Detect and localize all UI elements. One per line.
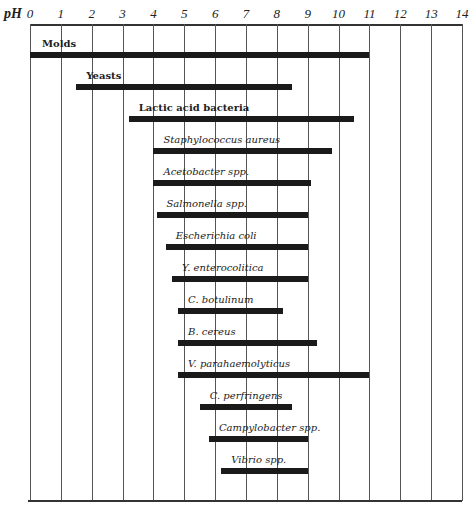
bar-label: Vibrio spp. (231, 454, 286, 465)
gridline (400, 24, 401, 501)
gridline (123, 24, 124, 501)
range-bar (153, 180, 310, 186)
x-tick-label: 2 (88, 6, 95, 22)
range-bar (178, 308, 283, 314)
range-bar (157, 212, 308, 218)
range-bar (209, 436, 308, 442)
bar-label: Yeasts (86, 70, 121, 81)
gridline (61, 24, 62, 501)
x-tick-label: 8 (274, 6, 281, 22)
range-bar (178, 372, 369, 378)
ph-range-chart: pH 01234567891011121314 MoldsYeastsLacti… (0, 0, 471, 511)
bar-label: Staphylococcus aureus (163, 134, 280, 145)
range-bar (153, 148, 332, 154)
bar-label: Lactic acid bacteria (139, 102, 250, 113)
x-tick-label: 10 (332, 6, 345, 22)
range-bar (200, 404, 293, 410)
x-tick-label: 5 (181, 6, 188, 22)
x-axis-label: pH (4, 6, 22, 22)
gridline (339, 24, 340, 501)
bar-label: Molds (42, 38, 76, 49)
range-bar (129, 116, 354, 122)
x-tick-label: 3 (119, 6, 126, 22)
bar-label: C. perfringens (210, 390, 283, 401)
bar-label: Campylobacter spp. (219, 422, 320, 433)
range-bar (172, 276, 308, 282)
bar-label: Escherichia coli (176, 230, 257, 241)
bar-label: Y. enterocolitica (182, 262, 264, 273)
gridline (431, 24, 432, 501)
x-tick-label: 13 (425, 6, 438, 22)
range-bar (178, 340, 317, 346)
range-bar (76, 84, 292, 90)
x-tick-label: 12 (394, 6, 407, 22)
range-bar (221, 468, 307, 474)
bar-label: Acetobacter spp. (163, 166, 249, 177)
x-tick-label: 11 (363, 6, 375, 22)
gridline (153, 24, 154, 501)
x-tick-label: 4 (150, 6, 157, 22)
x-tick-label: 0 (27, 6, 34, 22)
gridline (462, 24, 463, 501)
range-bar (30, 52, 369, 58)
gridline (92, 24, 93, 501)
gridline (369, 24, 370, 501)
range-bar (166, 244, 308, 250)
x-tick-label: 6 (212, 6, 219, 22)
bottom-axis-line (28, 500, 462, 502)
bar-label: C. botulinum (188, 294, 253, 305)
x-tick-label: 1 (58, 6, 65, 22)
x-tick-label: 14 (456, 6, 469, 22)
bar-label: V. parahaemolyticus (188, 358, 290, 369)
gridline (30, 24, 31, 501)
bar-label: Salmonella spp. (167, 198, 248, 209)
x-tick-label: 7 (243, 6, 250, 22)
x-tick-label: 9 (304, 6, 311, 22)
bar-label: B. cereus (188, 326, 236, 337)
